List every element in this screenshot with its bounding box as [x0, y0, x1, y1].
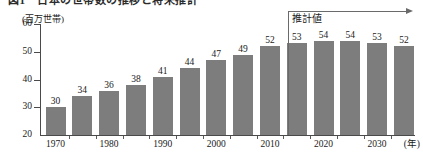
y-axis-tick-label: 40	[0, 75, 32, 85]
household-trend-chart: 図1 日本の世帯数の推移と将来推計 (百万世帯) 2030405060 1970…	[0, 0, 423, 154]
forecast-arrow-head-icon	[406, 8, 413, 14]
bar	[287, 43, 307, 135]
y-axis-tick-value: 40	[0, 75, 32, 85]
bar	[46, 107, 66, 135]
x-axis-tick-label: 1980	[89, 139, 129, 150]
bar	[99, 91, 119, 135]
y-axis-tick-label: 30	[0, 102, 32, 112]
bar-value-label: 53	[363, 32, 391, 42]
bar-value-label: 30	[42, 96, 70, 106]
forecast-arrow-line	[288, 11, 410, 12]
y-axis-tick	[34, 24, 40, 25]
bar	[126, 85, 146, 135]
y-axis-tick	[34, 52, 40, 53]
bar-value-label: 44	[176, 57, 204, 67]
bar	[180, 68, 200, 135]
x-axis-tick-label: 1970	[36, 139, 76, 150]
bar	[153, 77, 173, 135]
bar-value-label: 34	[68, 85, 96, 95]
y-axis-line	[40, 24, 41, 136]
x-axis-tick-label: 1990	[143, 139, 183, 150]
bar-value-label: 41	[149, 66, 177, 76]
bar	[72, 96, 92, 135]
y-axis-tick-value: 60	[0, 19, 32, 29]
y-axis-tick	[34, 107, 40, 108]
bar	[394, 46, 414, 135]
bar	[206, 60, 226, 135]
y-axis-tick-value: 50	[0, 47, 32, 57]
bar-value-label: 54	[336, 30, 364, 40]
y-axis-tick-label: 20	[0, 130, 32, 140]
x-axis-unit-label: (年)	[404, 139, 420, 150]
y-axis-tick-label: 60	[0, 19, 32, 29]
x-axis-tick-label: 2010	[250, 139, 290, 150]
bar-value-label: 53	[283, 32, 311, 42]
bar	[314, 41, 334, 135]
bar-value-label: 49	[229, 44, 257, 54]
bar-value-label: 47	[202, 49, 230, 59]
forecast-label: 推計値	[292, 13, 322, 25]
bar	[233, 55, 253, 135]
bar	[260, 46, 280, 135]
bar	[367, 43, 387, 135]
x-axis-tick-label: 2030	[357, 139, 397, 150]
y-axis-tick-value: 20	[0, 130, 32, 140]
plot-area: 2030405060 1970198019902000201020202030 …	[0, 0, 423, 154]
bar-value-label: 38	[122, 74, 150, 84]
bar-value-label: 52	[256, 35, 284, 45]
forecast-divider-line	[288, 11, 289, 135]
bar-value-label: 36	[95, 80, 123, 90]
y-axis-tick	[34, 80, 40, 81]
x-axis-tick-label: 2020	[304, 139, 344, 150]
bar-value-label: 52	[390, 35, 418, 45]
bar-value-label: 54	[310, 30, 338, 40]
y-axis-tick-label: 50	[0, 47, 32, 57]
x-axis-tick-label: 2000	[196, 139, 236, 150]
bar	[340, 41, 360, 135]
y-axis-tick-value: 30	[0, 102, 32, 112]
